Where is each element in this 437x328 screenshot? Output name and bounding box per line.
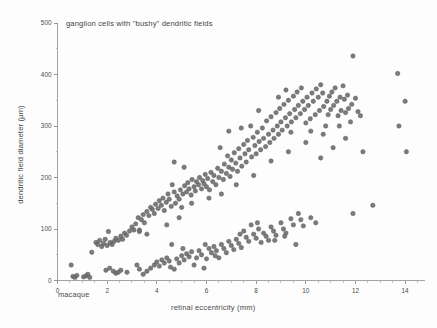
data-point <box>167 197 171 201</box>
data-point <box>225 154 229 158</box>
data-point <box>240 164 244 168</box>
data-point <box>116 238 120 242</box>
data-point <box>259 240 263 244</box>
data-point <box>308 117 312 121</box>
data-point <box>403 99 407 103</box>
data-point <box>204 257 208 261</box>
data-point <box>253 143 257 147</box>
data-point <box>269 159 273 163</box>
data-point <box>177 261 181 265</box>
data-point <box>177 197 181 201</box>
x-tick-label: 14 <box>395 287 415 294</box>
data-point <box>299 218 303 222</box>
data-point <box>310 91 314 95</box>
data-point <box>244 235 248 239</box>
figure-scatter-plot: ganglion cells with "bushy" dendritic fi… <box>0 0 437 328</box>
data-point <box>152 211 156 215</box>
data-point <box>90 250 94 254</box>
data-point <box>299 86 303 90</box>
data-point <box>343 136 347 140</box>
data-point <box>323 124 327 128</box>
data-point <box>316 95 320 99</box>
data-point <box>227 129 231 133</box>
data-point <box>397 124 401 128</box>
data-point <box>249 155 253 159</box>
data-point <box>196 183 200 187</box>
data-point <box>238 156 242 160</box>
data-point <box>214 183 218 187</box>
data-point <box>348 120 352 124</box>
y-tick-label: 200 <box>28 174 52 181</box>
data-point <box>212 244 216 248</box>
data-point <box>162 261 166 265</box>
data-point <box>96 242 100 246</box>
data-point <box>251 232 255 236</box>
data-point <box>295 90 299 94</box>
data-point <box>232 151 236 155</box>
data-point <box>199 253 203 257</box>
data-point <box>150 207 154 211</box>
data-point <box>234 161 238 165</box>
data-point <box>331 145 335 149</box>
data-point <box>165 223 169 227</box>
data-point <box>404 150 408 154</box>
data-point <box>148 266 152 270</box>
data-point <box>251 135 255 139</box>
data-point <box>189 249 193 253</box>
data-point <box>178 188 182 192</box>
data-point <box>296 211 300 215</box>
data-point <box>207 196 211 200</box>
data-point <box>207 188 211 192</box>
data-point <box>157 264 161 268</box>
data-point <box>106 229 110 233</box>
data-point <box>219 242 223 246</box>
data-point <box>294 242 298 246</box>
data-point <box>242 142 246 146</box>
data-point <box>232 247 236 251</box>
data-point <box>261 136 265 140</box>
data-point <box>283 234 287 238</box>
data-point <box>217 175 221 179</box>
data-point <box>266 132 270 136</box>
data-point <box>182 258 186 262</box>
data-point <box>335 99 339 103</box>
data-point <box>305 95 309 99</box>
data-point <box>371 203 375 207</box>
data-point <box>245 138 249 142</box>
data-point <box>289 120 293 124</box>
data-point <box>249 223 253 227</box>
data-point <box>292 107 296 111</box>
data-point <box>256 108 260 112</box>
data-point <box>197 248 201 252</box>
data-point <box>255 221 259 225</box>
data-point <box>319 83 323 87</box>
data-point <box>289 130 293 134</box>
data-point <box>338 95 342 99</box>
data-point <box>69 263 73 267</box>
data-point <box>328 107 332 111</box>
data-point <box>319 156 323 160</box>
data-point <box>350 102 354 106</box>
data-point <box>254 236 258 240</box>
data-point <box>304 121 308 125</box>
data-point <box>339 108 343 112</box>
data-point <box>291 223 295 227</box>
data-point <box>135 263 139 267</box>
data-point <box>276 132 280 136</box>
data-point <box>221 177 225 181</box>
data-point <box>248 124 252 128</box>
data-point <box>286 150 290 154</box>
data-point <box>337 124 341 128</box>
data-point <box>304 140 308 144</box>
data-point <box>331 103 335 107</box>
data-point <box>301 224 305 228</box>
data-point <box>269 225 273 229</box>
data-point <box>272 136 276 140</box>
data-point <box>353 96 357 100</box>
data-point <box>264 119 268 123</box>
data-point <box>260 126 264 130</box>
data-point <box>153 202 157 206</box>
data-point <box>172 190 176 194</box>
data-point <box>159 203 163 207</box>
data-point <box>263 144 267 148</box>
